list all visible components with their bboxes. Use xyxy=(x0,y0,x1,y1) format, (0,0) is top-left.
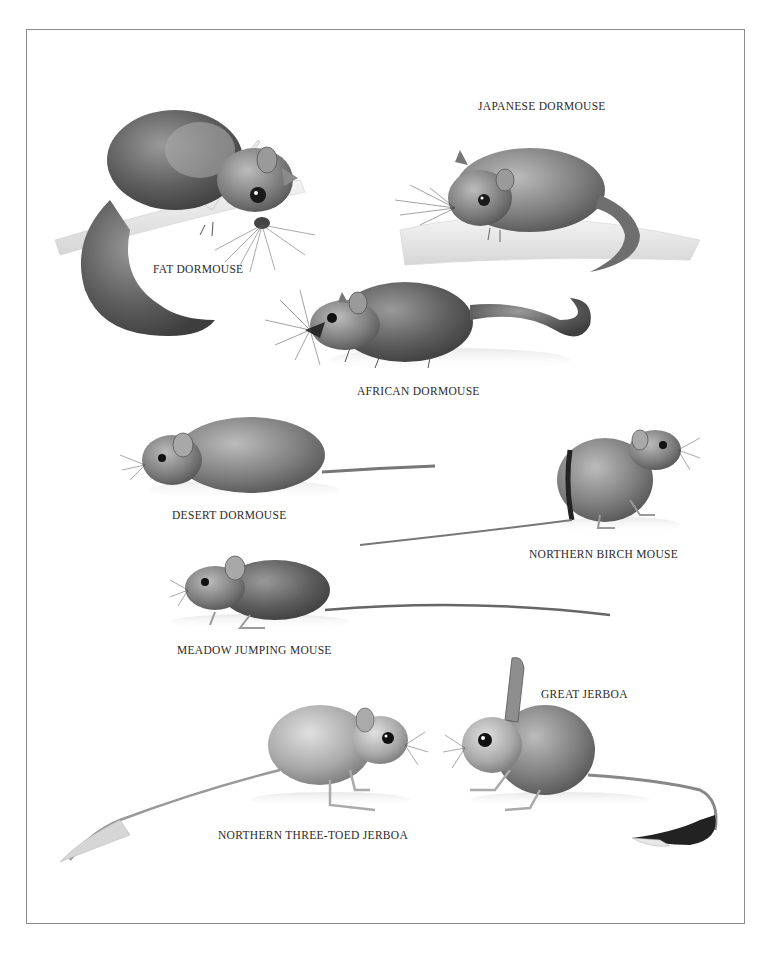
japanese-dormouse-figure xyxy=(395,148,700,272)
label-northern-three-toed-jerboa: NORTHERN THREE-TOED JERBOA xyxy=(218,829,408,841)
great-jerboa-figure xyxy=(443,657,716,846)
label-african-dormouse: AFRICAN DORMOUSE xyxy=(357,385,480,397)
label-desert-dormouse: DESERT DORMOUSE xyxy=(172,509,286,521)
desert-dormouse-figure xyxy=(120,417,435,500)
illustration-plate xyxy=(0,0,767,957)
northern-birch-mouse-figure xyxy=(360,430,700,545)
label-meadow-jumping-mouse: MEADOW JUMPING MOUSE xyxy=(177,644,332,656)
fat-dormouse-figure xyxy=(55,110,315,336)
label-fat-dormouse: FAT DORMOUSE xyxy=(153,263,243,275)
african-dormouse-figure xyxy=(265,282,591,372)
label-japanese-dormouse: JAPANESE DORMOUSE xyxy=(478,100,606,112)
label-northern-birch-mouse: NORTHERN BIRCH MOUSE xyxy=(529,548,678,560)
label-great-jerboa: GREAT JERBOA xyxy=(541,688,628,700)
meadow-jumping-mouse-figure xyxy=(170,556,610,630)
